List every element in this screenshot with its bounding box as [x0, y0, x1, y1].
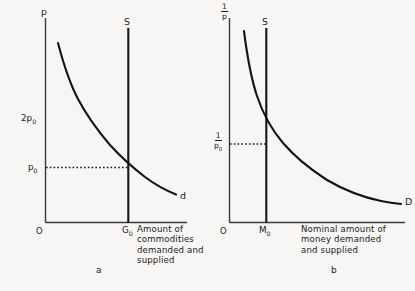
two-panel-supply-demand-figure: p S d 2p0 p0 O G0 Amount of commodities …: [0, 0, 415, 291]
panel-b-caption: b: [331, 265, 337, 275]
panel-b-y-axis-label: 1 p: [221, 3, 228, 20]
panel-a-caption: a: [96, 265, 102, 275]
panel-a-origin-label: O: [36, 226, 43, 236]
panel-b-y-axis-label-numerator: 1: [222, 3, 227, 11]
panel-b-demand-curve: [244, 31, 401, 204]
panel-a-y-axis-label: p: [41, 6, 47, 17]
panel-a-demand-label: d: [180, 190, 186, 201]
panel-b-y-tick-1-over-p0: 1 p0: [214, 132, 222, 152]
panel-b-demand-label: D: [405, 196, 412, 207]
panel-a-supply-label: S: [124, 16, 130, 27]
panel-b-x-axis-caption: Nominal amount of money demanded and sup…: [301, 224, 411, 255]
panel-a-commodity-market: p S d 2p0 p0 O G0 Amount of commodities …: [0, 0, 205, 291]
panel-b-y-tick-denominator: p0: [214, 141, 222, 151]
panel-b-x-tick-m0: M0: [259, 225, 271, 237]
panel-b-money-market: 1 p S D 1 p0 O M0 Nominal amount of mone…: [205, 0, 415, 291]
panel-b-origin-label: O: [220, 226, 227, 236]
panel-a-x-tick-g0: G0: [122, 225, 133, 237]
panel-b-supply-label: S: [262, 16, 268, 27]
panel-b-y-tick-numerator: 1: [216, 132, 221, 140]
panel-a-y-tick-2p0: 2p0: [21, 113, 36, 125]
panel-b-y-axis-label-denominator: p: [222, 12, 227, 20]
panel-a-y-tick-p0: p0: [28, 162, 38, 174]
panel-a-demand-curve: [58, 43, 176, 195]
